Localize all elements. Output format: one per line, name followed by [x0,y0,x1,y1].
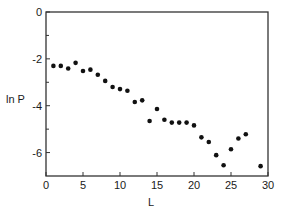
x-axis-ticks: 051015202530 [43,172,274,191]
data-point [133,100,138,105]
data-point [118,87,123,92]
data-point [66,66,71,71]
x-tick-label: 15 [151,179,163,191]
data-point [214,153,219,158]
data-point [73,61,78,66]
x-axis-label: L [148,196,154,208]
data-point [177,120,182,125]
x-tick-label: 20 [188,179,200,191]
data-point [96,72,101,77]
data-point [162,117,167,122]
data-point [170,120,175,125]
x-tick-label: 25 [225,179,237,191]
data-point [59,64,64,69]
data-point [258,164,263,169]
y-tick-label: -6 [32,147,42,159]
data-point [140,98,145,103]
y-tick-label: 0 [36,6,42,18]
data-point [192,123,197,128]
x-tick-label: 30 [262,179,274,191]
x-tick-label: 10 [114,179,126,191]
plot-frame [46,12,268,176]
x-tick-label: 5 [80,179,86,191]
y-tick-label: -4 [32,100,42,112]
x-tick-label: 0 [43,179,49,191]
data-point [147,119,152,124]
data-point [110,85,115,90]
data-point [81,69,86,74]
data-point [199,135,204,140]
axes-box [46,12,268,176]
data-point [184,120,189,125]
data-point [51,64,56,69]
data-point [221,163,226,168]
y-axis-ticks: 0-2-4-6 [32,6,50,159]
data-point [88,67,93,72]
data-point [125,88,130,93]
data-points [51,61,263,169]
data-point [103,79,108,84]
y-tick-label: -2 [32,53,42,65]
data-point [236,136,241,141]
scatter-chart: 051015202530 0-2-4-6 L ln P [0,0,281,219]
data-point [155,107,160,112]
data-point [244,132,249,137]
y-axis-label: ln P [6,93,25,105]
data-point [207,140,212,145]
data-point [229,147,234,152]
